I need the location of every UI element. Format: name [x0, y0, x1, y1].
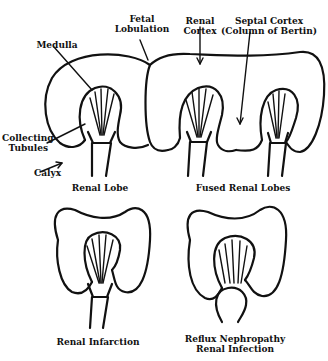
fused-right-pyramid — [236, 89, 298, 176]
medulla-label: Medulla — [36, 40, 77, 50]
caption-renal-lobe: Renal Lobe — [72, 183, 128, 193]
caption-renal-infarction-text: Renal Infarction — [57, 337, 140, 347]
diagram-drawing — [0, 0, 328, 361]
caption-fused-renal-lobes-text: Fused Renal Lobes — [196, 183, 291, 193]
septal-cortex-line-1: Septal Cortex — [221, 16, 317, 26]
renal-lobe-diagram: Fetal Lobulation Renal Cortex Septal Cor… — [0, 0, 328, 361]
fetal-lobulation-line-1: Fetal — [115, 14, 170, 24]
fused-middle-pyramid — [168, 87, 236, 176]
caption-renal-infarction: Renal Infarction — [57, 337, 140, 347]
renal-cortex-line-2: Cortex — [183, 26, 216, 36]
fetal-lobulation-line-2: Lobulation — [115, 24, 170, 34]
calyx-label: Calyx — [34, 168, 61, 178]
renal-cortex-label: Renal Cortex — [183, 16, 216, 36]
caption-fused-renal-lobes: Fused Renal Lobes — [196, 183, 291, 193]
fetal-lobulation-label: Fetal Lobulation — [115, 14, 170, 34]
left-lobe-pyramid — [80, 87, 148, 176]
septal-cortex-label: Septal Cortex (Column of Bertin) — [221, 16, 317, 36]
collecting-tubules-line-2: Tubules — [2, 143, 48, 153]
renal-cortex-line-1: Renal — [183, 16, 216, 26]
renal-infarction-drawing — [55, 208, 150, 328]
caption-reflux-nephropathy-line-2: Renal Infection — [185, 344, 285, 354]
septal-cortex-line-2: (Column of Bertin) — [221, 26, 317, 36]
reflux-nephropathy-drawing — [188, 207, 287, 322]
caption-renal-lobe-text: Renal Lobe — [72, 183, 128, 193]
caption-reflux-nephropathy: Reflux Nephropathy Renal Infection — [185, 334, 285, 354]
caption-reflux-nephropathy-line-1: Reflux Nephropathy — [185, 334, 285, 344]
collecting-tubules-label: Collecting Tubules — [2, 133, 48, 153]
collecting-tubules-line-1: Collecting — [2, 133, 48, 143]
